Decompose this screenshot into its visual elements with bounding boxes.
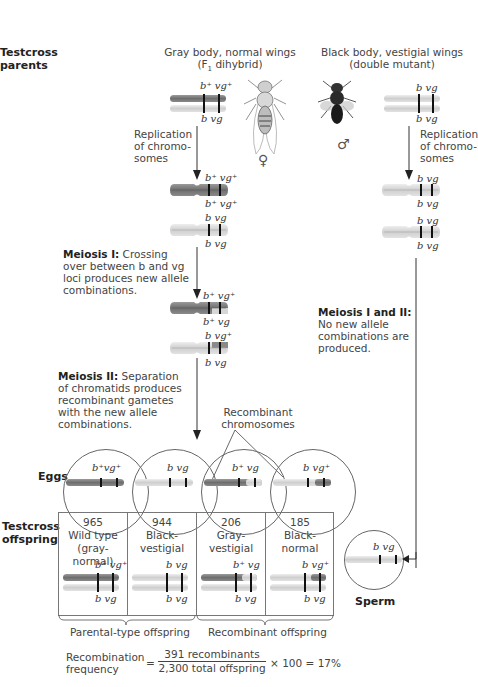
sperm-genes: b vg [373,541,395,552]
offspring-1-top-genes: b⁺ vg⁺ [95,559,127,570]
female-replication-arrow [193,126,201,180]
offspring-3-bottom-genes: b vg [235,593,257,604]
egg-4-chromosome [273,478,333,488]
female-symbol: ♀ [258,152,268,168]
formula-fraction: 391 recombinants 2,300 total offspring [158,648,266,674]
female-fly-icon [240,74,290,164]
sperm-chromosome [345,555,403,565]
offspring-col-black-vestigial: 944 Black- vestigial [128,516,196,555]
female-parent-title: Gray body, normal wings (F1 dihybrid) [160,46,300,75]
crossed-chromosome-light [170,342,230,356]
male-replication-label: Replication of chromo- somes [420,128,478,164]
offspring-2-bottom-genes: b vg [166,593,188,604]
crossed-2-top-genes: b vg⁺ [205,330,232,341]
offspring-1-chromosomes [63,573,123,593]
egg-1-genes: b⁺vg⁺ [92,462,121,473]
male-symbol: ♂ [337,136,350,152]
offspring-col-gray-vestigial: 206 Gray- vestigial [197,516,265,555]
egg-3-genes: b⁺ vg [232,462,259,473]
female-chromosome-pair [170,94,230,114]
formula-equals: = [146,657,155,669]
recombinant-chromosomes-label: Recombinant chromosomes [218,406,298,430]
crossed-chromosome-dark [170,302,230,316]
meiosis1-description: Meiosis I: Crossing over between b and v… [63,248,193,296]
meiosis2-arrow [193,358,201,440]
formula-result: × 100 = 17% [270,657,341,669]
male-replication-arrow [405,126,413,180]
male-bottom-genes: b vg [416,113,438,124]
egg-2-genes: b vg [167,462,189,473]
egg-1-chromosome [66,478,126,488]
male-meiosis-description: Meiosis I and II: No new allele combinat… [318,306,418,354]
offspring-table: 965 Wild type (gray-normal) b⁺ vg⁺ b vg … [58,512,334,616]
offspring-4-bottom-genes: b vg [304,593,326,604]
female-bottom-genes: b vg [201,113,223,124]
replicated-1-bottom-genes: b⁺ vg⁺ [205,198,237,209]
sperm: b vg [344,530,404,590]
male-replicated-1-bottom-genes: b vg [417,198,439,209]
testcross-parents-label: Testcross parents [0,46,58,72]
replicated-2-top-genes: b vg [205,212,227,223]
offspring-4-chromosomes [270,573,330,593]
sperm-label: Sperm [355,595,395,608]
male-top-genes: b vg [416,82,438,93]
crossed-1-bottom-genes: b⁺ vg [203,316,230,327]
replicated-2-bottom-genes: b vg [205,238,227,249]
parental-offspring-label: Parental-type offspring [70,626,190,638]
offspring-3-top-genes: b⁺ vg [233,559,260,570]
offspring-col-black-normal: 185 Black- normal [266,516,334,555]
offspring-1-bottom-genes: b vg [95,593,117,604]
male-replicated-2-top-genes: b vg [417,215,439,226]
male-replicated-2-bottom-genes: b vg [417,240,439,251]
male-fly-icon [315,78,359,138]
recombinant-offspring-label: Recombinant offspring [208,626,327,638]
replicated-chromosome-light [170,224,230,238]
replicated-chromosome-dark [170,184,230,198]
egg-4-genes: b vg⁺ [303,462,330,473]
offspring-3-chromosomes [201,573,261,593]
male-replicated-chromosome-1 [382,184,442,198]
male-chromosome-pair [384,94,444,114]
offspring-2-chromosomes [132,573,192,593]
female-replication-label: Replication of chromo- somes [134,128,192,164]
formula-lhs: Recombination frequency [66,651,145,675]
testcross-offspring-label: Testcross offspring [2,520,50,546]
crossed-2-bottom-genes: b vg [205,357,227,368]
egg-3-chromosome [204,478,264,488]
replicated-1-top-genes: b⁺ vg⁺ [205,172,237,183]
offspring-2-top-genes: b vg [166,559,188,570]
female-top-genes: b⁺ vg⁺ [200,80,232,91]
offspring-4-top-genes: b vg⁺ [302,559,329,570]
egg-2-chromosome [135,478,195,488]
male-replicated-chromosome-2 [382,226,442,240]
crossed-1-top-genes: b⁺ vg⁺ [203,290,235,301]
male-replicated-1-top-genes: b vg [417,173,439,184]
male-parent-title: Black body, vestigial wings (double muta… [310,46,474,70]
meiosis1-arrow [193,247,201,299]
meiosis2-description: Meiosis II: Separation of chromatids pro… [58,370,198,430]
sperm-arrow [402,555,418,565]
